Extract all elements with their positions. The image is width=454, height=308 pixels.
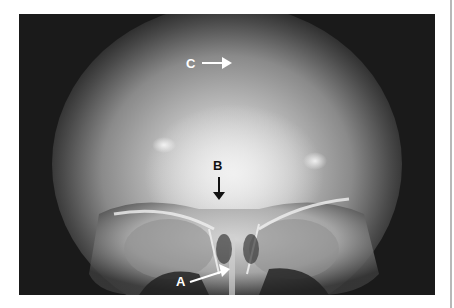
page-edge-divider — [450, 0, 452, 308]
annotation-label-c: C — [186, 57, 195, 70]
annotation-label-a: A — [176, 275, 185, 288]
annotation-label-b: B — [213, 159, 222, 172]
skull-radiograph — [19, 14, 435, 295]
radiograph-image — [19, 14, 435, 295]
